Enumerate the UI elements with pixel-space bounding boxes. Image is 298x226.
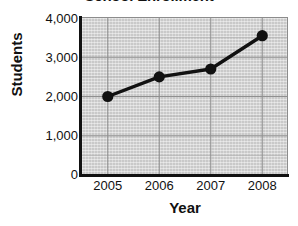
y-tick-label: 4,000 [34,12,78,25]
y-tick-label: 1,000 [34,129,78,142]
y-axis-label: Students [8,17,25,113]
x-tick-label: 2005 [80,178,136,193]
x-tick-label: 2006 [131,178,187,193]
y-axis-spine [79,16,82,177]
x-tick-label: 2007 [183,178,239,193]
data-line [108,36,263,97]
plot-svg [82,18,288,175]
data-point-marker [102,91,113,102]
data-point-marker [205,63,216,74]
x-axis-label: Year [82,199,288,216]
y-tick-label: 3,000 [34,51,78,64]
x-axis-tick-labels: 2005 2006 2007 2008 [82,178,288,198]
plot-area [82,18,288,175]
data-point-marker [154,71,165,82]
data-point-marker [257,30,268,41]
plot-top-spine [82,17,288,18]
chart-figure: School Enrollment Students 4,000 3,000 2… [0,0,298,226]
x-axis-spine [79,174,289,177]
x-tick-label: 2008 [234,178,290,193]
y-tick-label: 0 [34,168,78,181]
y-axis-tick-labels: 4,000 3,000 2,000 1,000 0 [32,0,78,226]
y-tick-label: 2,000 [34,90,78,103]
plot-right-spine [287,17,288,175]
